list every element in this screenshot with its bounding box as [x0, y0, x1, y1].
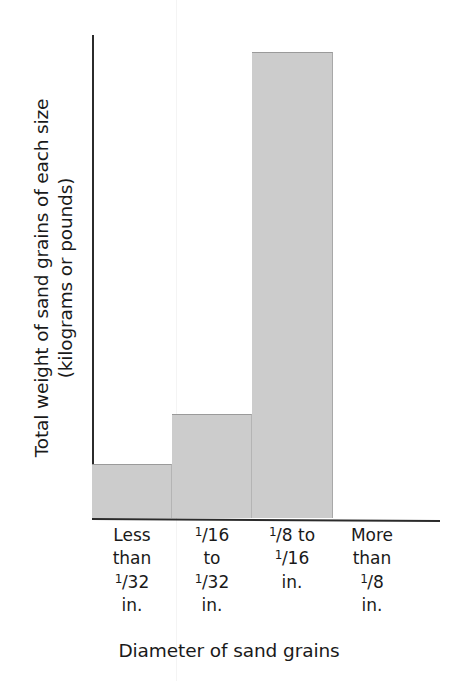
- x-tick-label-1-16-to-1-32: 1/16 to 1/32 in.: [172, 524, 252, 628]
- x-tick-label-1-8-to-1-16: 1/8 to 1/16 in.: [252, 524, 332, 628]
- bar-less-than-1-32: [92, 464, 172, 518]
- x-axis-tick-labels: Less than 1/32 in. 1/16 to 1/32 in. 1/8 …: [92, 524, 440, 628]
- fraction-denominator: /8: [367, 572, 384, 592]
- x-tick-label-more-than-1-8: More than 1/8 in.: [332, 524, 412, 628]
- tick-line-1: Less: [92, 524, 172, 547]
- tick-line-1: More: [332, 524, 412, 547]
- tick-line-4: in.: [332, 594, 412, 617]
- y-axis-title-line-2: (kilograms or pounds): [54, 178, 78, 379]
- fraction-denominator: /32: [202, 572, 229, 592]
- sand-grain-size-bar-chart: Total weight of sand grains of each size…: [0, 0, 458, 681]
- x-axis-line: [92, 518, 440, 522]
- tick-line-1: 1/8 to: [252, 524, 332, 547]
- bar-series: [92, 35, 333, 518]
- tick-line-2: to: [172, 547, 252, 570]
- tick-line-3: 1/32: [92, 571, 172, 594]
- x-tick-label-less-than-1-32: Less than 1/32 in.: [92, 524, 172, 628]
- tick-line-4: in.: [92, 594, 172, 617]
- y-axis-title: Total weight of sand grains of each size…: [18, 48, 90, 508]
- x-axis-title: Diameter of sand grains: [0, 640, 458, 661]
- tick-line-2: 1/16: [252, 547, 332, 570]
- tick-line-3: in.: [252, 571, 332, 594]
- tick-line-1: 1/16: [172, 524, 252, 547]
- tick-line-3: 1/32: [172, 571, 252, 594]
- plot-area: [92, 35, 440, 520]
- bar-1-16-to-1-32: [172, 414, 252, 518]
- fraction-denominator: /16: [202, 525, 229, 545]
- tick-line-2: than: [332, 547, 412, 570]
- fraction-denominator: /16: [282, 548, 309, 568]
- bar-1-8-to-1-16: [252, 52, 333, 518]
- fraction-denominator: /32: [122, 572, 149, 592]
- tick-line-2: than: [92, 547, 172, 570]
- tick-line-4: in.: [172, 594, 252, 617]
- y-axis-title-line-1: Total weight of sand grains of each size: [30, 99, 54, 458]
- fraction-denominator: /8 to: [276, 525, 315, 545]
- tick-line-3: 1/8: [332, 571, 412, 594]
